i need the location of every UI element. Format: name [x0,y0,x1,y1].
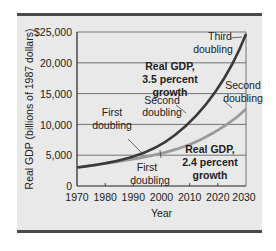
svg-text:15,000: 15,000 [40,88,72,100]
svg-text:growth: growth [193,169,228,181]
svg-text:Second: Second [225,79,261,91]
svg-text:2.4 percent: 2.4 percent [182,156,238,168]
svg-text:3.5 percent: 3.5 percent [142,73,198,85]
series-label-3-5-percent: Real GDP, 3.5 percent growth [142,60,198,98]
svg-text:doubling: doubling [130,174,170,186]
svg-text:growth: growth [153,86,188,98]
chart-svg: $25,000 20,000 15,000 10,000 5,000 0 197… [0,0,276,251]
svg-text:doubling: doubling [223,92,263,104]
svg-text:2020: 2020 [206,191,230,203]
svg-text:doubling: doubling [92,119,132,131]
svg-text:2010: 2010 [178,191,202,203]
x-tick-labels: 1970 1980 1990 2000 2010 2020 2030 [65,191,256,203]
annotation-third-doubling-high: Third doubling [193,30,233,55]
svg-text:2030: 2030 [232,191,256,203]
svg-text:Real GDP,: Real GDP, [185,143,234,155]
svg-text:1970: 1970 [65,191,89,203]
y-axis-title: Real GDP (billions of 1987 dollars) [23,29,35,190]
svg-text:Real GDP,: Real GDP, [145,60,194,72]
svg-text:20,000: 20,000 [40,57,72,69]
svg-text:1980: 1980 [94,191,118,203]
annotation-first-doubling-high: First doubling [92,106,132,131]
svg-text:First: First [102,106,122,118]
annotation-second-doubling-low: Second doubling [223,79,263,104]
svg-text:2000: 2000 [150,191,174,203]
svg-text:5,000: 5,000 [46,149,72,161]
svg-text:First: First [137,161,157,173]
svg-text:Third: Third [208,30,232,42]
series-label-2-4-percent: Real GDP, 2.4 percent growth [182,143,238,181]
svg-text:doubling: doubling [142,106,182,118]
svg-text:doubling: doubling [193,43,233,55]
y-tick-labels: $25,000 20,000 15,000 10,000 5,000 0 [34,26,72,192]
svg-text:$25,000: $25,000 [34,26,72,38]
annotation-first-doubling-low: First doubling [130,161,170,186]
svg-text:1990: 1990 [122,191,146,203]
x-axis-title: Year [151,207,173,219]
svg-text:10,000: 10,000 [40,119,72,131]
